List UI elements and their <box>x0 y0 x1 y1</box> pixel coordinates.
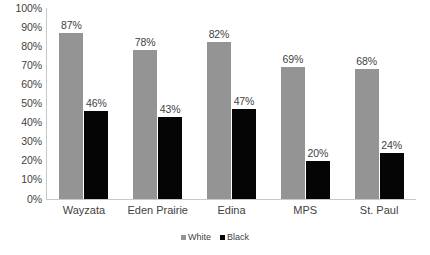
bar-black-wayzata: 46% <box>84 111 108 199</box>
y-tick-label: 40% <box>0 117 42 128</box>
bar-value-label: 20% <box>307 147 328 159</box>
y-tick-label: 90% <box>0 22 42 33</box>
bar-white-mps: 69% <box>281 67 305 199</box>
bar-black-edina: 47% <box>232 109 256 199</box>
legend-swatch-icon <box>220 235 225 240</box>
bar-value-label: 47% <box>234 95 255 107</box>
y-tick-label: 0% <box>0 194 42 205</box>
bar-black-mps: 20% <box>306 161 330 199</box>
bar-value-label: 87% <box>61 19 82 31</box>
x-label-st-paul: St. Paul <box>342 203 416 217</box>
y-tick-label: 20% <box>0 155 42 166</box>
bar-black-st-paul: 24% <box>380 153 404 199</box>
bar-white-edina: 82% <box>207 42 231 199</box>
x-axis-line <box>46 199 416 200</box>
bar-white-eden-prairie: 78% <box>133 50 157 199</box>
bar-group: 68%24% <box>342 8 416 199</box>
bar-black-eden-prairie: 43% <box>158 117 182 199</box>
bar-white-wayzata: 87% <box>59 33 83 199</box>
legend-item-black[interactable]: Black <box>220 232 249 242</box>
y-tick-label: 10% <box>0 174 42 185</box>
bar-value-label: 24% <box>381 139 402 151</box>
bar-group: 78%43% <box>121 8 195 199</box>
x-axis-category-labels: WayzataEden PrairieEdinaMPSSt. Paul <box>47 203 416 221</box>
bar-group: 69%20% <box>268 8 342 199</box>
legend-label: White <box>188 232 211 242</box>
y-tick-label: 100% <box>0 3 42 14</box>
plot-area: 87%46%78%43%82%47%69%20%68%24% <box>47 8 416 199</box>
y-axis-tick-labels: 100%90%80%70%60%50%40%30%20%10%0% <box>0 0 42 204</box>
bar-value-label: 78% <box>135 36 156 48</box>
bar-value-label: 68% <box>356 55 377 67</box>
legend-label: Black <box>227 232 249 242</box>
x-label-wayzata: Wayzata <box>47 203 121 217</box>
x-label-eden-prairie: Eden Prairie <box>121 203 195 217</box>
y-tick-label: 60% <box>0 79 42 90</box>
bar-value-label: 46% <box>86 97 107 109</box>
chart-legend: WhiteBlack <box>0 232 430 242</box>
bar-value-label: 43% <box>160 103 181 115</box>
y-tick-label: 30% <box>0 136 42 147</box>
bar-group: 87%46% <box>47 8 121 199</box>
y-tick-label: 80% <box>0 41 42 52</box>
bar-white-st-paul: 68% <box>355 69 379 199</box>
x-label-mps: MPS <box>268 203 342 217</box>
legend-swatch-icon <box>181 235 186 240</box>
bar-value-label: 82% <box>209 28 230 40</box>
bar-value-label: 69% <box>282 53 303 65</box>
bar-chart: 100%90%80%70%60%50%40%30%20%10%0% 87%46%… <box>0 0 430 255</box>
legend-item-white[interactable]: White <box>181 232 211 242</box>
x-label-edina: Edina <box>195 203 269 217</box>
y-tick-label: 70% <box>0 60 42 71</box>
bar-group: 82%47% <box>195 8 269 199</box>
y-tick-label: 50% <box>0 98 42 109</box>
